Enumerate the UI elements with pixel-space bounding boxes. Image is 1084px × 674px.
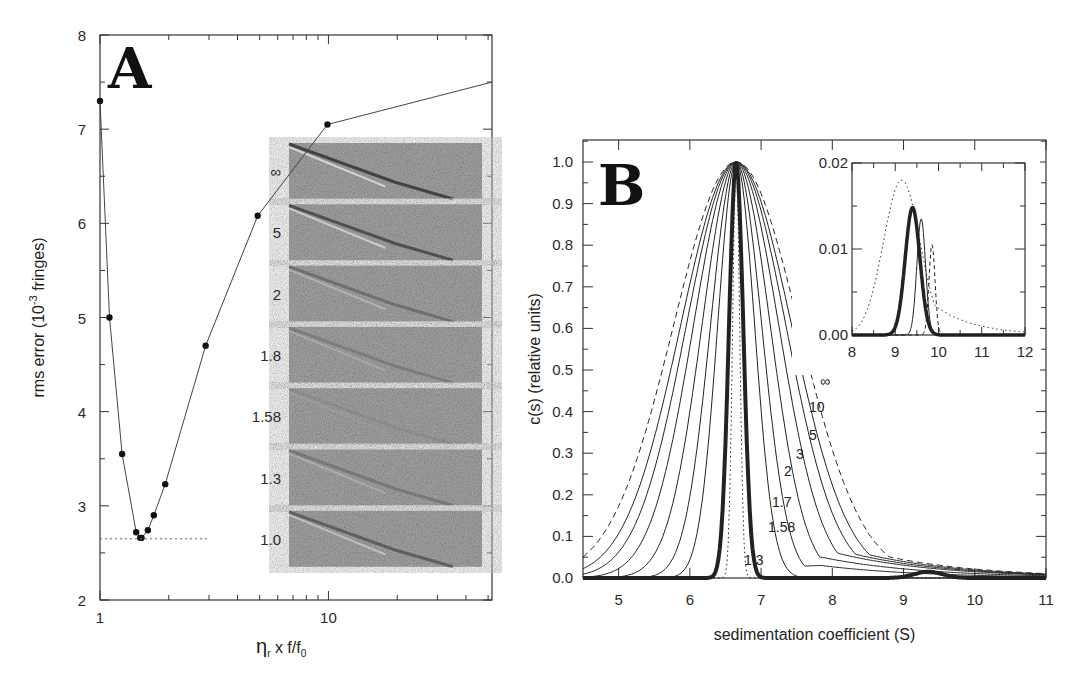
x-axis-title-a: ηr x f/f0 (256, 635, 307, 659)
data-point (145, 527, 151, 533)
residual-map-label: 1.8 (260, 347, 281, 364)
inset-x-tick-label: 10 (930, 343, 947, 360)
y-tick-label: 7 (78, 121, 86, 138)
y-tick-label: 3 (78, 498, 86, 515)
curve-label: 5 (809, 427, 817, 443)
residual-map-label: 5 (273, 224, 281, 241)
x-axis-title-b: sedimentation coefficient (S) (714, 626, 916, 643)
data-point (133, 529, 139, 535)
data-point (162, 481, 168, 487)
data-point (119, 451, 125, 457)
inset-x-tick-label: 12 (1017, 343, 1034, 360)
y-tick-label: 0.0 (552, 569, 573, 586)
x-tick-label: 10 (966, 591, 983, 608)
y-tick-label: 0.2 (552, 486, 573, 503)
data-point (254, 213, 260, 219)
y-tick-label: 8 (78, 27, 86, 44)
y-tick-label: 0.9 (552, 195, 573, 212)
y-tick-label: 0.6 (552, 319, 573, 336)
y-tick-label: 4 (78, 404, 86, 421)
inset-y-tick-label: 0.00 (819, 326, 848, 343)
residual-map: 1.0 (260, 511, 482, 567)
curve-label: 1.3 (744, 552, 764, 568)
y-tick-label: 0.8 (552, 236, 573, 253)
y-tick-label: 6 (78, 215, 86, 232)
y-tick-label: 1.0 (552, 153, 573, 170)
y-tick-label: 0.3 (552, 444, 573, 461)
residual-map: 1.3 (260, 450, 482, 506)
x-tick-label: 5 (614, 591, 622, 608)
y-axis-title-b: c(s) (relative units) (526, 293, 543, 425)
y-tick-label: 0.1 (552, 527, 573, 544)
curve-label: 1.7 (772, 494, 792, 510)
data-point (324, 121, 330, 127)
data-point (202, 343, 208, 349)
figure-canvas: 2345678110rms error (10-3 fringes)ηr x f… (0, 0, 1084, 674)
curve-label: ∞ (820, 373, 830, 389)
residual-map-label: 1.0 (260, 531, 281, 548)
x-tick-label: 7 (757, 591, 765, 608)
inset-y-tick-label: 0.01 (819, 240, 848, 257)
panel-b: 0.00.10.20.30.40.50.60.70.80.91.05678910… (526, 140, 1054, 643)
inset-x-tick-label: 8 (848, 343, 856, 360)
residual-map-label: 1.3 (260, 470, 281, 487)
data-point (138, 535, 144, 541)
y-tick-label: 2 (78, 592, 86, 609)
residual-map-label: ∞ (270, 163, 281, 180)
y-tick-label: 0.4 (552, 403, 573, 420)
x-tick-label: 8 (828, 591, 836, 608)
y-tick-label: 5 (78, 310, 86, 327)
residual-map: 5 (273, 204, 482, 260)
x-tick-label: 6 (686, 591, 694, 608)
curve-label: 10 (809, 399, 825, 415)
panel-label-a: A (107, 35, 153, 101)
panel-a: 2345678110rms error (10-3 fringes)ηr x f… (27, 27, 492, 659)
curve-label: 2 (784, 463, 792, 479)
curve-label: 3 (796, 446, 804, 462)
residual-map: 2 (273, 266, 482, 322)
x-tick-label: 11 (1038, 591, 1054, 608)
data-point (106, 314, 112, 320)
residual-map-label: 2 (273, 286, 281, 303)
residual-map: ∞ (270, 143, 482, 199)
residual-map-label: 1.58 (252, 408, 281, 425)
curve-label: 1.58 (768, 519, 795, 535)
inset-x-tick-label: 9 (891, 343, 899, 360)
data-point (151, 512, 157, 518)
x-tick-label: 1 (96, 609, 104, 626)
inset-x-tick-label: 11 (974, 343, 990, 360)
panel-label-b: B (598, 152, 645, 218)
x-tick-label: 9 (899, 591, 907, 608)
residual-map: 1.58 (252, 388, 482, 444)
data-point (97, 98, 103, 104)
y-tick-label: 0.5 (552, 361, 573, 378)
y-tick-label: 0.7 (552, 278, 573, 295)
residual-map: 1.8 (260, 327, 482, 383)
y-axis-title-a: rms error (10-3 fringes) (27, 237, 47, 397)
inset-y-tick-label: 0.02 (819, 154, 848, 171)
x-tick-label: 10 (320, 609, 337, 626)
